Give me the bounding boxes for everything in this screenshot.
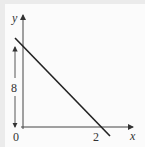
graph-canvas: y x 0 2 8 <box>0 0 145 147</box>
x-intercept-label: 2 <box>93 130 99 144</box>
height-label: 8 <box>11 81 17 95</box>
origin-label: 0 <box>13 130 19 144</box>
x-axis-label: x <box>129 129 136 143</box>
y-axis-label: y <box>11 11 18 25</box>
graph-line <box>15 38 110 136</box>
